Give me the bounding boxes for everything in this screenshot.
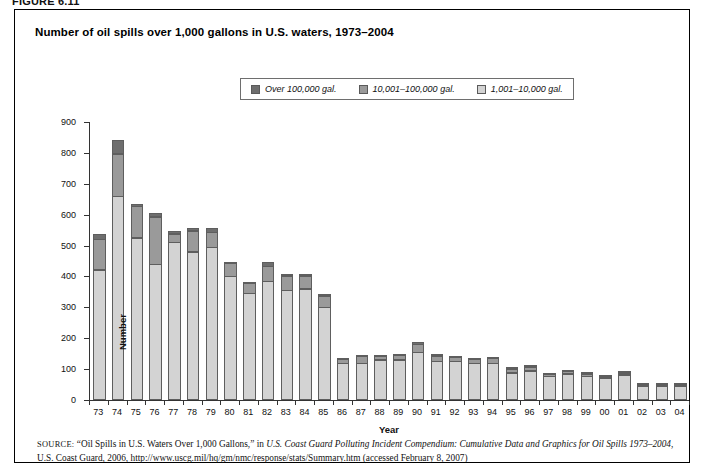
y-axis-tick: 800 <box>84 153 89 154</box>
x-axis-tick-label: 97 <box>543 407 553 417</box>
bar-group[interactable] <box>131 204 143 400</box>
bar-group[interactable] <box>637 384 649 400</box>
x-axis-tick-label: 82 <box>262 407 272 417</box>
bar-group[interactable] <box>487 357 499 400</box>
bar-group[interactable] <box>337 358 349 400</box>
y-axis-tick: 500 <box>84 246 89 247</box>
bar-group[interactable] <box>506 368 518 400</box>
bar-series-container <box>90 122 689 400</box>
x-axis-tick <box>164 401 165 405</box>
figure-frame: Number of oil spills over 1,000 gallons … <box>14 9 690 463</box>
bar-group[interactable] <box>374 356 386 400</box>
bar-segment <box>468 363 480 400</box>
bar-segment <box>431 361 443 400</box>
bar-segment <box>337 363 349 400</box>
x-axis-tick-label: 01 <box>618 407 628 417</box>
x-axis-tick <box>108 401 109 405</box>
x-axis-tick-label: 96 <box>525 407 535 417</box>
x-axis-tick <box>520 401 521 405</box>
x-axis-tick-label: 87 <box>356 407 366 417</box>
bar-group[interactable] <box>543 373 555 400</box>
x-axis-tick <box>127 401 128 405</box>
legend-label: Over 100,000 gal. <box>265 84 337 94</box>
page-title: Number of oil spills over 1,000 gallons … <box>35 26 394 38</box>
bar-group[interactable] <box>112 141 124 400</box>
x-axis-tick-label: 84 <box>300 407 310 417</box>
x-axis-tick <box>145 401 146 405</box>
bar-group[interactable] <box>206 229 218 400</box>
bar-group[interactable] <box>356 356 368 400</box>
x-axis-tick <box>333 401 334 405</box>
bar-group[interactable] <box>468 358 480 400</box>
x-axis-tick <box>558 401 559 405</box>
bar-segment <box>599 378 611 400</box>
bar-group[interactable] <box>149 213 161 400</box>
bar-group[interactable] <box>449 357 461 400</box>
bar-group[interactable] <box>187 229 199 400</box>
x-axis-tick <box>445 401 446 405</box>
bar-segment <box>206 232 218 247</box>
x-axis-tick-label: 90 <box>412 407 422 417</box>
y-axis-tick-label: 200 <box>61 333 76 343</box>
bar-group[interactable] <box>599 376 611 400</box>
bar-segment <box>112 140 124 154</box>
x-axis-tick <box>539 401 540 405</box>
y-axis-tick: 100 <box>84 369 89 370</box>
source-keyword: SOURCE: <box>37 440 74 449</box>
bar-segment <box>356 363 368 400</box>
bar-segment <box>131 238 143 400</box>
bar-segment <box>299 276 311 290</box>
x-axis-tick-label: 74 <box>112 407 122 417</box>
x-axis-tick-label: 95 <box>506 407 516 417</box>
y-axis-tick-label: 100 <box>61 364 76 374</box>
x-axis-tick <box>277 401 278 405</box>
bar-segment <box>187 231 199 253</box>
bar-group[interactable] <box>656 384 668 400</box>
bar-group[interactable] <box>299 274 311 400</box>
bar-group[interactable] <box>412 343 424 400</box>
bar-group[interactable] <box>581 373 593 400</box>
x-axis-tick <box>408 401 409 405</box>
chart-plot-area: 0100200300400500600700800900 73747576777… <box>89 122 689 401</box>
bar-group[interactable] <box>262 263 274 400</box>
x-axis-tick-label: 77 <box>168 407 178 417</box>
x-axis-tick-label: 88 <box>375 407 385 417</box>
legend-item: 1,001–10,000 gal. <box>477 84 563 94</box>
bar-segment <box>262 266 274 281</box>
bar-segment <box>281 290 293 400</box>
x-axis-tick-label: 85 <box>318 407 328 417</box>
y-axis-tick-label: 400 <box>61 271 76 281</box>
x-axis-tick-label: 75 <box>131 407 141 417</box>
source-note: SOURCE: “Oil Spills in U.S. Waters Over … <box>37 438 687 464</box>
bar-segment <box>506 373 518 400</box>
bar-group[interactable] <box>243 282 255 400</box>
x-axis-tick <box>314 401 315 405</box>
figure-label: FIGURE 6.11 <box>12 0 80 9</box>
legend-item: Over 100,000 gal. <box>251 84 337 94</box>
bar-group[interactable] <box>281 274 293 400</box>
bar-group[interactable] <box>393 354 405 400</box>
y-axis-tick: 900 <box>84 122 89 123</box>
bar-segment <box>318 296 330 308</box>
bar-group[interactable] <box>524 366 536 400</box>
bar-group[interactable] <box>168 232 180 400</box>
bar-segment <box>93 270 105 400</box>
x-axis-tick-label: 00 <box>600 407 610 417</box>
bar-group[interactable] <box>93 235 105 400</box>
x-axis-tick <box>483 401 484 405</box>
bar-group[interactable] <box>431 355 443 400</box>
bar-group[interactable] <box>674 384 686 400</box>
y-axis-tick-label: 300 <box>61 302 76 312</box>
bar-group[interactable] <box>318 295 330 400</box>
y-axis-tick: 400 <box>84 276 89 277</box>
bar-group[interactable] <box>562 370 574 400</box>
bar-segment <box>224 263 236 277</box>
bar-group[interactable] <box>618 372 630 400</box>
x-axis-tick <box>202 401 203 405</box>
x-axis-tick-label: 04 <box>675 407 685 417</box>
bar-segment <box>562 374 574 400</box>
x-axis-tick <box>389 401 390 405</box>
bar-group[interactable] <box>224 262 236 400</box>
y-axis-tick-label: 900 <box>61 117 76 127</box>
bar-segment <box>112 196 124 400</box>
